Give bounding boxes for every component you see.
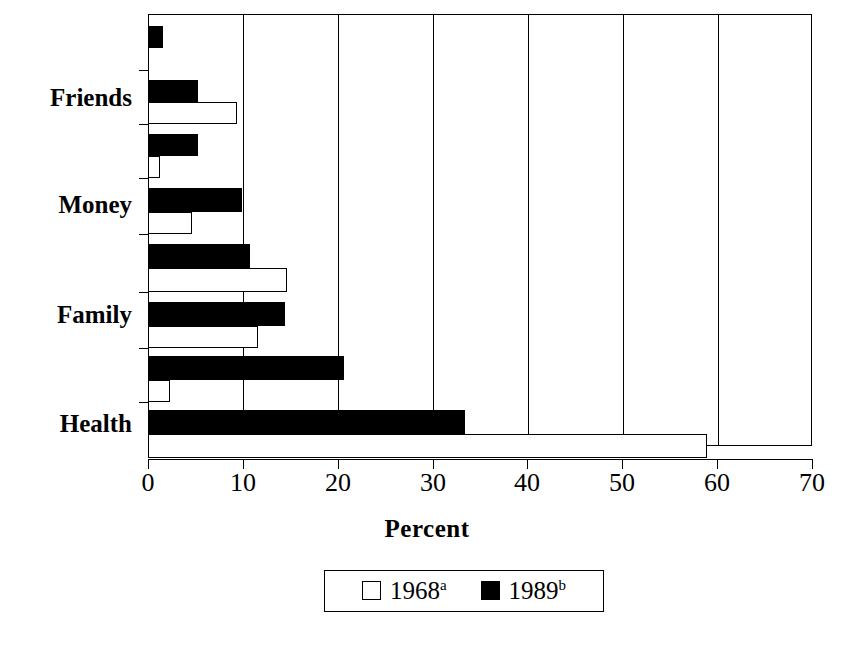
legend-label-1968: 1968a [390, 578, 447, 603]
legend-label-1968-sup: a [440, 577, 447, 593]
legend-label-1989: 1989b [509, 578, 567, 603]
legend-label-1968-text: 1968 [390, 578, 440, 605]
x-tick-label-0: 0 [142, 470, 155, 496]
legend-label-1989-sup: b [559, 577, 567, 593]
bar-1989-row8 [148, 26, 163, 48]
y-tick-1 [139, 70, 148, 71]
x-tick-label-10: 10 [230, 470, 256, 496]
bar-1989-money [148, 188, 242, 212]
bar-1989-family [148, 302, 285, 326]
x-tick-label-60: 60 [704, 470, 730, 496]
bar-1989-row6 [148, 134, 198, 156]
bar-1989-friends [148, 80, 198, 102]
x-tick-label-70: 70 [799, 470, 825, 496]
x-axis-title: Percent [0, 515, 854, 543]
chart-legend: 1968a 1989b [324, 570, 604, 612]
bar-1968-money [148, 212, 192, 234]
bar-1989-row2 [148, 356, 344, 380]
black-square-icon [481, 581, 500, 600]
bar-1968-health [148, 434, 707, 458]
bar-1989-health [148, 410, 465, 434]
x-tick-label-50: 50 [609, 470, 635, 496]
bar-1968-row6 [148, 156, 160, 178]
bar-1968-row4 [148, 268, 287, 292]
legend-label-1989-text: 1989 [509, 578, 559, 605]
y-label-money: Money [58, 192, 132, 217]
bar-1989-row4 [148, 244, 250, 268]
y-label-family: Family [57, 302, 132, 327]
y-tick-3 [139, 178, 148, 179]
y-label-friends: Friends [50, 85, 132, 110]
x-axis-line [148, 459, 812, 460]
legend-entry-1989: 1989b [481, 578, 567, 603]
bars-layer [148, 14, 812, 446]
bar-1968-row2 [148, 380, 170, 402]
y-tick-7 [139, 402, 148, 403]
y-label-health: Health [60, 411, 132, 436]
bar-1968-family [148, 326, 258, 348]
y-tick-2 [139, 124, 148, 125]
bar-1968-friends [148, 102, 237, 124]
y-tick-4 [139, 234, 148, 235]
legend-entry-1968: 1968a [362, 578, 447, 603]
y-tick-5 [139, 292, 148, 293]
y-axis: Friends Money Family Health [0, 14, 148, 446]
y-tick-6 [139, 348, 148, 349]
x-tick-label-20: 20 [325, 470, 351, 496]
x-tick-label-40: 40 [514, 470, 540, 496]
x-tick-label-30: 30 [420, 470, 446, 496]
white-square-icon [362, 581, 381, 600]
horizontal-bar-chart: Friends Money Family Health 0 10 20 30 4… [0, 0, 854, 659]
